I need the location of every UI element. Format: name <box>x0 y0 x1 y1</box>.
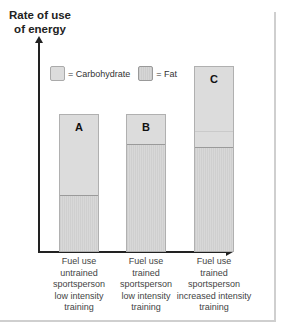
bar-b: B <box>126 114 166 252</box>
label-line: trained <box>173 268 255 280</box>
bar-b-fat-segment <box>127 144 165 251</box>
bar-c-letter: C <box>195 73 233 85</box>
label-line: training <box>173 302 255 314</box>
bar-a: A <box>59 114 99 252</box>
frame-border-right <box>274 12 276 322</box>
label-line: Fuel use <box>173 256 255 268</box>
label-line: sportsperson <box>173 279 255 291</box>
bar-a-letter: A <box>60 121 98 133</box>
y-axis-label-line1: Rate of use <box>4 8 76 22</box>
category-label-c: Fuel use trained sportsperson increased … <box>173 256 255 314</box>
bar-a-fat-segment <box>60 195 98 251</box>
legend-carbohydrate-label: = Carbohydrate <box>68 69 130 79</box>
bar-b-letter: B <box>127 121 165 133</box>
bar-c-fat-segment <box>195 147 233 251</box>
bar-c: C <box>194 66 234 252</box>
legend: = Carbohydrate = Fat <box>50 66 185 81</box>
legend-fat-label: = Fat <box>156 69 177 79</box>
y-axis-label: Rate of use of energy <box>4 8 76 36</box>
carbohydrate-swatch-icon <box>50 66 65 81</box>
y-axis-label-line2: of energy <box>4 22 76 36</box>
bar-c-divider <box>195 131 233 132</box>
label-line: increased intensity <box>173 291 255 303</box>
fat-swatch-icon <box>138 66 153 81</box>
y-axis <box>38 40 40 252</box>
frame-border-bottom <box>0 320 276 322</box>
